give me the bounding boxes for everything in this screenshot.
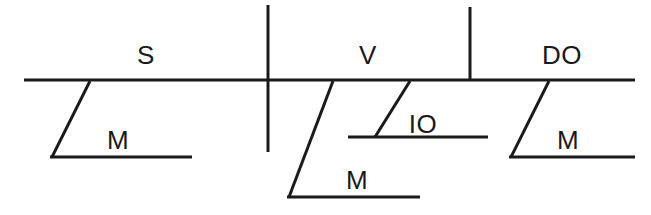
direct-object-modifier-slant [511, 81, 549, 157]
diagram-canvas [0, 0, 651, 215]
verb-modifier-label: M [346, 167, 368, 193]
verb-modifier-slant [289, 81, 333, 197]
subject-modifier-label: M [107, 127, 129, 153]
indirect-object-slant [375, 81, 410, 137]
subject-label: S [137, 42, 155, 68]
direct-object-modifier-label: M [557, 127, 579, 153]
subject-modifier-slant [52, 81, 90, 157]
sentence-diagram: S V DO M M IO M [0, 0, 651, 215]
direct-object-label: DO [542, 42, 582, 68]
verb-label: V [359, 42, 377, 68]
indirect-object-label: IO [409, 111, 437, 137]
